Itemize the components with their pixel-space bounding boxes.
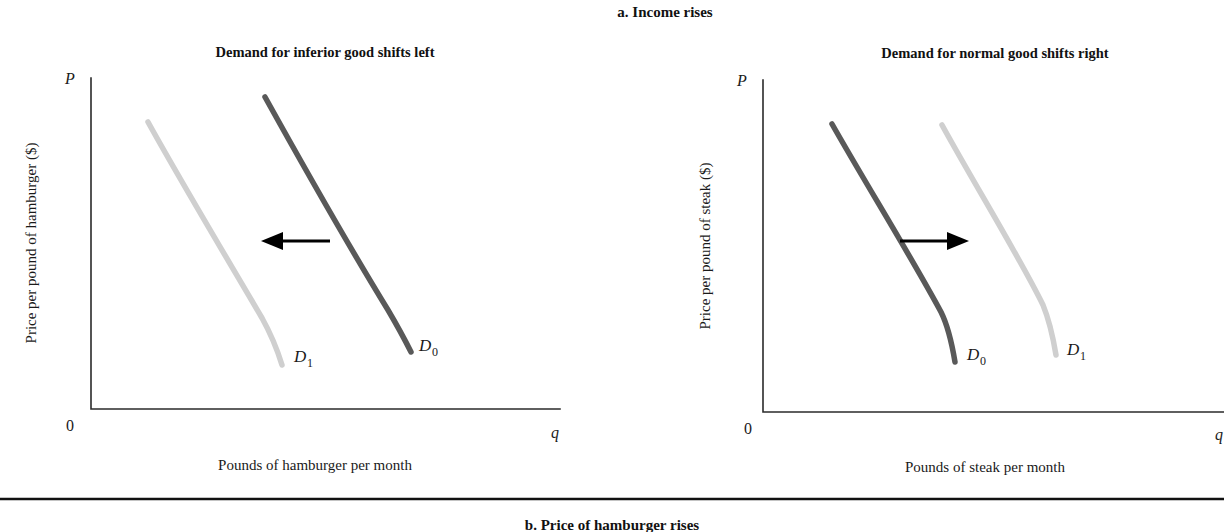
svg-text:0: 0: [980, 354, 986, 368]
x-axis-caption-normal-good: Pounds of steak per month: [905, 459, 1065, 475]
x-axis-caption-inferior-good: Pounds of hamburger per month: [218, 457, 412, 473]
demand-curve-d1-inferior-good: [148, 122, 282, 365]
section-a-heading: a. Income rises: [617, 4, 713, 20]
y-axis-caption-normal-good: Price per pound of steak ($): [697, 162, 714, 329]
panel-title-normal-good: Demand for normal good shifts right: [881, 45, 1108, 61]
origin-label-inferior-good: 0: [66, 417, 74, 434]
demand-curve-d0-normal-good: [832, 124, 955, 362]
panel-normal-good: Demand for normal good shifts right P q …: [697, 45, 1224, 475]
demand-curve-d0-inferior-good: [265, 97, 411, 352]
x-axis-symbol-inferior-good: q: [551, 424, 559, 442]
svg-text:1: 1: [307, 356, 313, 370]
shift-arrow-left: [261, 232, 330, 250]
svg-text:D: D: [966, 345, 980, 364]
axes-inferior-good: [91, 78, 560, 409]
y-axis-caption-inferior-good: Price per pound of hamburger ($): [23, 143, 40, 344]
demand-shift-figure: a. Income rises Demand for inferior good…: [0, 0, 1224, 532]
curve-label-d0-inferior-good: D 0: [418, 336, 438, 359]
svg-text:D: D: [293, 347, 307, 366]
panel-inferior-good: Demand for inferior good shifts left P q…: [23, 44, 560, 473]
curve-label-d1-normal-good: D 1: [1066, 340, 1086, 363]
svg-text:D: D: [1066, 340, 1080, 359]
svg-text:0: 0: [432, 345, 438, 359]
y-axis-symbol-inferior-good: P: [64, 70, 75, 87]
section-b-heading: b. Price of hamburger rises: [525, 517, 699, 532]
shift-arrow-right: [900, 232, 969, 250]
panel-title-inferior-good: Demand for inferior good shifts left: [216, 44, 435, 60]
origin-label-normal-good: 0: [744, 420, 752, 437]
svg-text:D: D: [418, 336, 432, 355]
svg-text:1: 1: [1080, 349, 1086, 363]
curve-label-d1-inferior-good: D 1: [293, 347, 313, 370]
y-axis-symbol-normal-good: P: [736, 72, 747, 89]
x-axis-symbol-normal-good: q: [1215, 426, 1223, 444]
curve-label-d0-normal-good: D 0: [966, 345, 986, 368]
